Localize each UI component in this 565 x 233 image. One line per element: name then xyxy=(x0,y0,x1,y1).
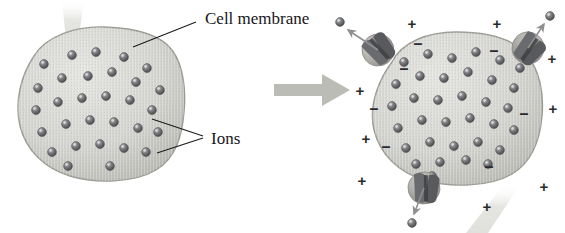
charge-sign-negative: – xyxy=(400,60,409,77)
ion xyxy=(394,124,403,133)
ion xyxy=(488,76,497,85)
ion xyxy=(106,162,115,171)
ion xyxy=(490,120,499,129)
charge-sign-negative: – xyxy=(370,100,379,117)
ion-highlight xyxy=(155,129,157,131)
ion-highlight xyxy=(465,69,467,71)
ion-highlight xyxy=(107,163,109,165)
ion-outside xyxy=(546,12,555,21)
ion xyxy=(134,124,143,133)
ion xyxy=(110,118,119,127)
ion-highlight xyxy=(121,145,123,147)
ion xyxy=(84,72,93,81)
ion-highlight xyxy=(395,125,397,127)
ion xyxy=(40,60,49,69)
ion-highlight xyxy=(483,99,485,101)
ion-highlight xyxy=(419,117,421,119)
charge-sign-positive: + xyxy=(548,50,557,67)
ion-highlight xyxy=(109,69,111,71)
ion-highlight xyxy=(437,159,439,161)
ion xyxy=(482,98,491,107)
ion-highlight xyxy=(425,51,427,53)
ions-label: Ions xyxy=(211,129,240,148)
ion xyxy=(86,116,95,125)
ion xyxy=(96,140,105,149)
ion-highlight xyxy=(49,149,51,151)
cell-membrane-label: Cell membrane xyxy=(205,9,309,28)
ion xyxy=(436,158,445,167)
charge-sign-positive: + xyxy=(540,178,549,195)
ion xyxy=(462,156,471,165)
left-cell[interactable] xyxy=(18,27,185,181)
ion-highlight xyxy=(473,49,475,51)
ion xyxy=(458,92,467,101)
ion xyxy=(32,106,41,115)
ion xyxy=(448,54,457,63)
ion-highlight xyxy=(547,13,549,15)
ion xyxy=(474,138,483,147)
ion-highlight xyxy=(467,115,469,117)
ion xyxy=(418,116,427,125)
left-cell-texture xyxy=(18,27,185,181)
charge-sign-positive: + xyxy=(493,15,502,32)
ion-highlight xyxy=(443,119,445,121)
charge-sign-positive: + xyxy=(483,198,492,215)
ion-highlight xyxy=(41,61,43,63)
ion-highlight xyxy=(33,107,35,109)
ion-highlight xyxy=(463,157,465,159)
ion-highlight xyxy=(55,99,57,101)
ion xyxy=(142,148,151,157)
ion-highlight xyxy=(97,141,99,143)
charge-sign-positive: + xyxy=(356,82,365,99)
ion xyxy=(442,118,451,127)
ion xyxy=(92,48,101,57)
ion-highlight xyxy=(135,125,137,127)
ion xyxy=(434,96,443,105)
ion-highlight xyxy=(427,139,429,141)
ion-highlight xyxy=(459,93,461,95)
ion xyxy=(392,80,401,89)
ion-highlight xyxy=(435,97,437,99)
ion xyxy=(450,142,459,151)
ion xyxy=(504,104,513,113)
ion-highlight xyxy=(63,121,65,123)
ion-highlight xyxy=(497,147,499,149)
ion xyxy=(143,64,152,73)
ion-highlight xyxy=(491,121,493,123)
ion-highlight xyxy=(127,97,129,99)
ion xyxy=(102,92,111,101)
ion xyxy=(38,128,47,137)
ion xyxy=(416,72,425,81)
ion xyxy=(48,148,57,157)
ion-outside xyxy=(336,18,345,27)
charge-sign-positive: + xyxy=(362,130,371,147)
ion xyxy=(78,94,87,103)
ion-highlight xyxy=(35,85,37,87)
charge-sign-positive: + xyxy=(358,172,367,189)
ion-highlight xyxy=(121,54,123,56)
ion xyxy=(388,102,397,111)
ion-highlight xyxy=(411,95,413,97)
ion xyxy=(496,146,505,155)
charge-sign-negative: – xyxy=(382,138,391,155)
ion-highlight xyxy=(441,75,443,77)
cell-membrane-diagram: +++++++++––––––– Cell membrane Ions xyxy=(0,0,565,233)
right-cell[interactable]: +++++++++––––––– xyxy=(336,12,558,228)
charge-sign-positive: + xyxy=(549,100,558,117)
ion-highlight xyxy=(505,105,507,107)
ion xyxy=(472,48,481,57)
ion-highlight xyxy=(511,85,513,87)
ion xyxy=(426,138,435,147)
ion xyxy=(510,126,519,135)
ion xyxy=(424,50,433,59)
ion-outside xyxy=(408,219,417,228)
ion xyxy=(410,94,419,103)
ion-highlight xyxy=(475,139,477,141)
charge-sign-negative: – xyxy=(490,42,499,59)
ion xyxy=(402,144,411,153)
transition-arrow xyxy=(274,74,350,106)
ion xyxy=(68,51,77,60)
ion-highlight xyxy=(73,143,75,145)
charge-sign-negative: – xyxy=(485,158,494,175)
ion-highlight xyxy=(103,93,105,95)
